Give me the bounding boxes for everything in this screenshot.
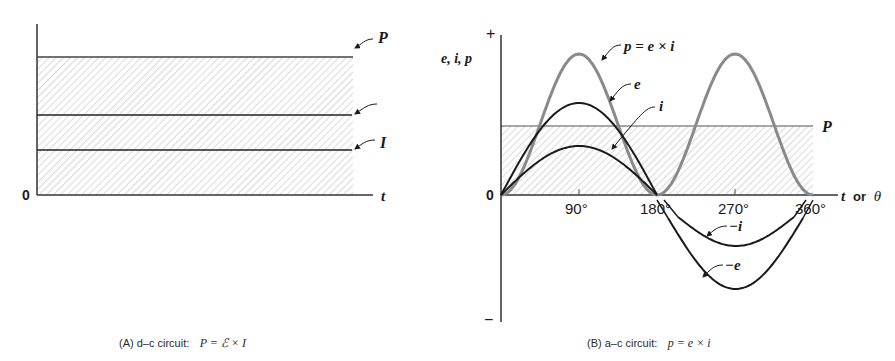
panel-b-tick-label-360: 360° [795, 200, 826, 217]
panel-b-tick-label-270: 270° [718, 200, 749, 217]
panel-a-caption-formula: P = ℰ × I [199, 336, 247, 350]
figure: P I 0 t (A) d–c circuit: P = ℰ × I + e, … [0, 0, 895, 361]
panel-a-shaded-area [37, 57, 353, 195]
panel-b-neg-e-pointer [703, 265, 723, 277]
panel-b-origin-label: 0 [486, 187, 494, 203]
panel-a-i-pointer [355, 140, 375, 149]
panel-b-p-pointer [602, 45, 621, 60]
panel-b-y-label: e, i, p [441, 51, 472, 66]
panel-b-p-label: p = e × i [622, 38, 675, 54]
panel-a-origin-label: 0 [22, 187, 30, 203]
panel-b-i-label: i [659, 98, 664, 114]
panel-b-x-label-t: t [841, 188, 846, 204]
panel-b-caption-prefix: (B) a–c circuit: [587, 337, 657, 349]
panel-a-e-pointer [355, 104, 377, 114]
panel-a-caption-prefix: (A) d–c circuit: [119, 337, 189, 349]
panel-b-shaded-area [501, 126, 813, 195]
panel-a-p-label: P [377, 29, 388, 46]
panel-b-y-plus: + [486, 25, 495, 42]
panel-a-dc-circuit: P I 0 t (A) d–c circuit: P = ℰ × I [22, 24, 388, 350]
panel-b-neg-i-pointer [707, 226, 727, 236]
panel-b-x-label-or: or [849, 189, 869, 204]
panel-a-caption: (A) d–c circuit: P = ℰ × I [119, 333, 247, 350]
panel-b-neg-i-label: −i [729, 218, 743, 234]
panel-a-i-label: I [379, 134, 387, 151]
panel-a-p-pointer [355, 39, 373, 48]
panel-b-tick-label-180: 180° [640, 200, 671, 217]
panel-b-x-label-theta: θ [874, 188, 882, 204]
panel-b-caption: (B) a–c circuit: p = e × i [587, 333, 711, 350]
panel-b-x-label: t or θ [841, 187, 882, 204]
panel-a-x-label: t [381, 188, 386, 204]
panel-b-ac-circuit: + e, i, p − 0 90° 180° 270° 360° t or θ … [441, 25, 882, 350]
panel-b-tick-label-90: 90° [565, 200, 588, 217]
panel-b-y-minus: − [484, 311, 493, 328]
panel-b-caption-formula: p = e × i [667, 336, 711, 350]
panel-b-e-pointer [610, 84, 631, 101]
panel-b-neg-e-label: −e [725, 257, 741, 273]
panel-b-e-label: e [634, 76, 641, 92]
panel-b-average-power-label: P [821, 118, 832, 135]
